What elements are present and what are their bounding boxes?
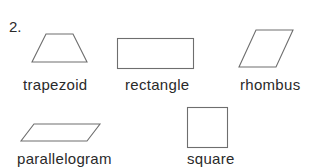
- trapezoid-shape: [32, 34, 87, 62]
- parallelogram-label: parallelogram: [17, 150, 112, 167]
- square-label: square: [187, 150, 235, 167]
- rhombus-shape: [239, 30, 293, 67]
- trapezoid-label: trapezoid: [23, 76, 87, 93]
- rectangle-shape: [118, 39, 194, 69]
- rectangle-label: rectangle: [125, 76, 189, 93]
- square-shape: [188, 108, 228, 148]
- rhombus-label: rhombus: [240, 76, 300, 93]
- parallelogram-shape: [21, 124, 100, 141]
